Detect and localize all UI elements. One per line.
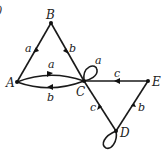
edge-label-E-C: c xyxy=(114,67,120,80)
node-label-B: B xyxy=(45,8,55,22)
edge-label-D-C: c xyxy=(90,101,96,114)
node-E xyxy=(146,79,150,83)
edge-label-D-E: b xyxy=(138,101,145,114)
node-label-A: A xyxy=(5,76,15,90)
node-label-C: C xyxy=(76,85,85,99)
node-D xyxy=(114,129,118,133)
node-label-D: D xyxy=(119,126,130,140)
edge-label-A-C: a xyxy=(48,58,55,71)
edge-D-D xyxy=(103,131,116,148)
node-A xyxy=(15,80,19,84)
node-C xyxy=(82,79,86,83)
edge-label-B-C: b xyxy=(69,42,76,55)
arrow-icon xyxy=(33,47,39,53)
node-label-E: E xyxy=(151,75,161,89)
arrow-icon xyxy=(47,71,53,77)
edge-label-C-A: b xyxy=(47,91,54,104)
edge-label-B-A: a xyxy=(25,42,32,55)
state-diagram: ) a b a b a c c b B A C E D xyxy=(0,0,163,153)
edge-A-C xyxy=(17,75,84,82)
edge-label-C-C: a xyxy=(95,54,102,67)
edge-C-C xyxy=(84,66,97,81)
arrow-icon xyxy=(47,84,53,90)
corner-mark: ) xyxy=(0,4,2,17)
